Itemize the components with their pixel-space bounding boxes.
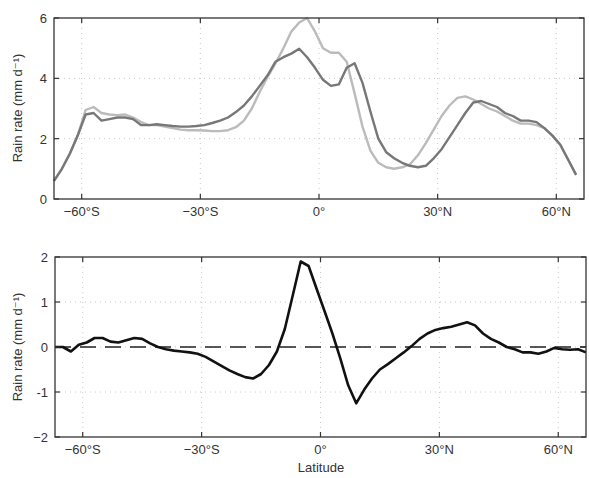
y-tick-label: 0 [41,340,48,355]
y-tick-label: 4 [40,71,47,86]
light-gray-series-line [54,18,576,181]
x-tick-label: 0° [313,204,325,219]
dark-gray-series-line [54,49,576,181]
y-tick-label: 6 [40,11,47,26]
y-tick-label: 2 [41,250,48,265]
top-panel: −60°S−30°S0°30°N60°N0246 Rain rate (mm d… [10,11,584,219]
top-y-axis-label: Rain rate (mm d⁻¹) [10,54,25,163]
x-tick-label: −30°S [182,204,218,219]
top-grid [54,18,584,199]
x-tick-label: −60°S [64,204,100,219]
x-tick-label: −60°S [65,442,101,457]
x-tick-label: 30°N [423,204,452,219]
y-tick-label: −2 [33,430,48,445]
bottom-panel: −60°S−30°S0°30°N60°N−2-1012 Rain rate (m… [10,250,586,475]
y-tick-label: 1 [41,295,48,310]
x-tick-label: −30°S [184,442,220,457]
figure: −60°S−30°S0°30°N60°N0246 Rain rate (mm d… [0,0,589,478]
top-series [54,18,576,181]
y-tick-label: -1 [36,385,48,400]
y-tick-label: 0 [40,192,47,207]
x-tick-label: 60°N [542,204,571,219]
x-tick-label: 0° [314,442,326,457]
x-tick-label: 60°N [544,442,573,457]
bottom-ticks: −60°S−30°S0°30°N60°N−2-1012 [33,250,586,457]
bottom-x-axis-label: Latitude [298,460,344,475]
y-tick-label: 2 [40,132,47,147]
x-tick-label: 30°N [425,442,454,457]
bottom-y-axis-label: Rain rate (mm d⁻¹) [10,293,25,402]
